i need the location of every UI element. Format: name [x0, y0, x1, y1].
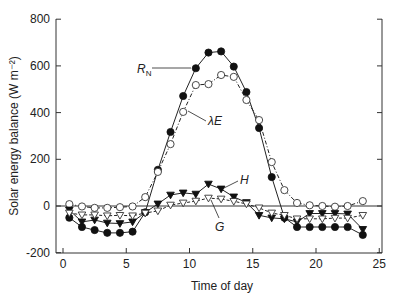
- open-circle-marker: [154, 168, 161, 175]
- open-triangle-marker: [319, 216, 327, 223]
- open-circle-marker: [205, 81, 212, 88]
- y-tick-label: -200: [26, 246, 50, 260]
- g-leader-line: [211, 200, 219, 218]
- h-leader-line: [224, 181, 238, 188]
- open-circle-marker: [167, 141, 174, 148]
- filled-triangle-marker: [205, 181, 213, 188]
- filled-circle-marker: [255, 124, 262, 131]
- open-circle-marker: [180, 108, 187, 115]
- open-circle-marker: [306, 202, 313, 209]
- filled-triangle-marker: [154, 201, 162, 208]
- open-circle-marker: [293, 199, 300, 206]
- filled-circle-marker: [243, 88, 250, 95]
- filled-triangle-marker: [217, 186, 225, 193]
- lambda-e-leader-line: [188, 111, 206, 121]
- filled-circle-marker: [230, 63, 237, 70]
- y-axis-title: Solar energy balance (W m⁻²): [7, 56, 21, 215]
- open-circle-marker: [359, 197, 366, 204]
- open-circle-marker: [319, 202, 326, 209]
- open-circle-marker: [331, 203, 338, 210]
- open-triangle-marker: [331, 215, 339, 222]
- filled-circle-marker: [319, 223, 326, 230]
- y-tick-label: 0: [43, 199, 50, 213]
- series-rn-markers: [66, 48, 367, 239]
- series-e-markers: [66, 71, 367, 211]
- filled-circle-marker: [205, 49, 212, 56]
- y-tick-label: 400: [30, 106, 50, 120]
- x-tick-label: 20: [309, 257, 323, 271]
- filled-triangle-marker: [167, 192, 175, 199]
- solar-energy-balance-chart: -20002004006008000510152025 RNλEHG Time …: [0, 0, 396, 299]
- filled-circle-marker: [192, 65, 199, 72]
- open-triangle-marker: [255, 205, 263, 212]
- filled-circle-marker: [116, 229, 123, 236]
- filled-circle-marker: [331, 223, 338, 230]
- filled-circle-marker: [167, 128, 174, 135]
- x-tick-label: 5: [123, 257, 130, 271]
- y-tick-label: 800: [30, 12, 50, 26]
- filled-triangle-marker: [192, 191, 200, 198]
- filled-circle-marker: [104, 229, 111, 236]
- open-circle-marker: [281, 187, 288, 194]
- open-circle-marker: [192, 81, 199, 88]
- filled-circle-marker: [218, 48, 225, 55]
- open-circle-marker: [116, 204, 123, 211]
- open-circle-marker: [142, 194, 149, 201]
- h-label: H: [240, 173, 249, 187]
- rn-label: RN: [137, 62, 152, 78]
- open-circle-marker: [255, 116, 262, 123]
- series-layer: [66, 48, 367, 239]
- y-tick-label: 600: [30, 59, 50, 73]
- filled-triangle-marker: [116, 221, 124, 228]
- open-circle-marker: [78, 203, 85, 210]
- open-circle-marker: [129, 203, 136, 210]
- open-triangle-marker: [306, 216, 314, 223]
- open-circle-marker: [268, 159, 275, 166]
- x-tick-label: 25: [373, 257, 387, 271]
- lambda-e-label: λE: [207, 114, 223, 128]
- open-circle-marker: [243, 96, 250, 103]
- g-label: G: [215, 220, 224, 234]
- filled-circle-marker: [91, 226, 98, 233]
- x-axis-title: Time of day: [191, 279, 253, 293]
- open-circle-marker: [104, 204, 111, 211]
- filled-circle-marker: [180, 92, 187, 99]
- x-tick-label: 15: [246, 257, 260, 271]
- open-circle-marker: [230, 73, 237, 80]
- y-tick-label: 200: [30, 152, 50, 166]
- open-circle-marker: [66, 201, 73, 208]
- filled-circle-marker: [129, 228, 136, 235]
- filled-circle-marker: [268, 173, 275, 180]
- open-triangle-marker: [116, 212, 124, 219]
- open-triangle-marker: [103, 213, 111, 220]
- open-triangle-marker: [344, 215, 352, 222]
- x-tick-label: 0: [60, 257, 67, 271]
- filled-circle-marker: [306, 223, 313, 230]
- open-circle-marker: [218, 71, 225, 78]
- open-circle-marker: [344, 202, 351, 209]
- x-tick-label: 10: [183, 257, 197, 271]
- filled-circle-marker: [344, 223, 351, 230]
- open-circle-marker: [91, 204, 98, 211]
- series-e-line: [69, 75, 363, 208]
